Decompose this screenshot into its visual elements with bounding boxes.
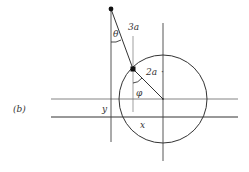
label-3a: 3a (128, 22, 139, 32)
pendulum-diagram: 3a θ 2a · φ y x (b) (0, 0, 249, 172)
label-y: y (101, 104, 108, 114)
bob-mass (131, 67, 136, 72)
theta-arc (111, 40, 121, 42)
panel-label: (b) (13, 104, 26, 114)
label-x: x (140, 120, 145, 130)
label-2a: 2a (145, 67, 157, 77)
label-dot: · (161, 67, 164, 77)
label-theta: θ (113, 29, 119, 39)
label-phi: φ (136, 88, 143, 98)
phi-arc (133, 78, 142, 83)
pendulum-rod (111, 9, 133, 69)
pivot-point (109, 7, 114, 12)
center-point (162, 98, 164, 100)
